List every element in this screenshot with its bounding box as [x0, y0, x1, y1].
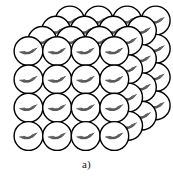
lattice-sphere	[14, 37, 43, 66]
lattice-sphere	[43, 65, 72, 94]
lattice-sphere	[71, 37, 100, 66]
lattice-sphere	[100, 65, 129, 94]
lattice-sphere	[100, 122, 129, 151]
figure-caption: a)	[0, 158, 173, 170]
lattice-sphere	[43, 122, 72, 151]
lattice-sphere	[100, 93, 129, 122]
figure-container: a)	[0, 0, 173, 184]
lattice-sphere	[14, 122, 43, 151]
lattice-sphere	[14, 93, 43, 122]
lattice-sphere	[43, 37, 72, 66]
lattice-spheres-group	[14, 6, 170, 150]
lattice-sphere	[71, 93, 100, 122]
lattice-sphere	[43, 93, 72, 122]
lattice-sphere	[71, 122, 100, 151]
lattice-sphere	[71, 65, 100, 94]
sphere-lattice-illustration	[0, 0, 173, 184]
lattice-sphere	[14, 65, 43, 94]
lattice-sphere	[100, 37, 129, 66]
